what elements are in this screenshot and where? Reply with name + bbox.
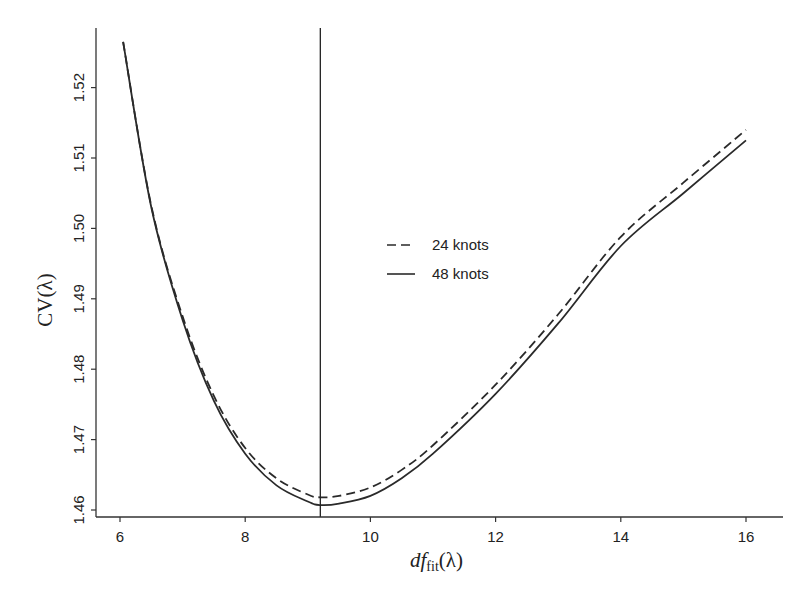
y-tick-label: 1.52 bbox=[70, 73, 87, 102]
x-tick-label: 16 bbox=[738, 528, 755, 545]
y-tick-label: 1.48 bbox=[70, 355, 87, 384]
y-tick-label: 1.49 bbox=[70, 284, 87, 313]
legend-item-24-knots: 24 knots bbox=[387, 236, 489, 253]
legend: 24 knots 48 knots bbox=[387, 236, 489, 282]
y-tick-label: 1.47 bbox=[70, 425, 87, 454]
x-title-subscript: fit bbox=[426, 559, 439, 574]
x-tick-label: 12 bbox=[487, 528, 504, 545]
cv-chart: 6810121416 1.461.471.481.491.501.511.52 … bbox=[0, 0, 809, 615]
x-tick-label: 6 bbox=[116, 528, 124, 545]
y-title-text: CV(λ) bbox=[33, 273, 57, 326]
x-axis-ticks: 6810121416 bbox=[116, 517, 755, 545]
legend-label: 48 knots bbox=[432, 265, 489, 282]
y-axis-title: CV(λ) bbox=[33, 273, 57, 326]
axes: 6810121416 1.461.471.481.491.501.511.52 bbox=[70, 28, 783, 545]
x-title-argument: (λ) bbox=[439, 548, 463, 572]
y-tick-label: 1.46 bbox=[70, 495, 87, 524]
y-tick-label: 1.51 bbox=[70, 143, 87, 172]
x-tick-label: 10 bbox=[362, 528, 379, 545]
svg-text:dffit(λ): dffit(λ) bbox=[410, 548, 463, 574]
x-axis-title: dffit(λ) bbox=[410, 548, 463, 574]
x-tick-label: 14 bbox=[612, 528, 629, 545]
y-tick-label: 1.50 bbox=[70, 214, 87, 243]
legend-label: 24 knots bbox=[432, 236, 489, 253]
y-axis-ticks: 1.461.471.481.491.501.511.52 bbox=[70, 73, 96, 525]
x-tick-label: 8 bbox=[241, 528, 249, 545]
legend-item-48-knots: 48 knots bbox=[387, 265, 489, 282]
